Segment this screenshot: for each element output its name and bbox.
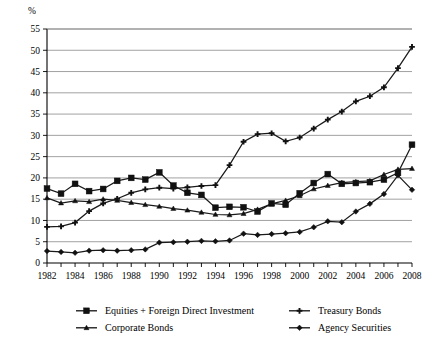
x-tick-label: 1986 — [94, 271, 113, 281]
x-tick-label: 2004 — [346, 271, 365, 281]
data-point-marker — [241, 204, 247, 210]
data-point-marker — [100, 186, 106, 192]
data-point-marker — [44, 186, 50, 192]
y-tick-label: 50 — [31, 46, 41, 56]
data-point-marker — [213, 205, 219, 211]
y-tick-label: 10 — [31, 216, 41, 226]
data-point-marker — [184, 190, 190, 196]
data-point-marker — [325, 171, 331, 177]
y-tick-label: 0 — [35, 258, 40, 268]
x-tick-label: 1994 — [206, 271, 225, 281]
y-tick-label: 35 — [31, 109, 41, 119]
y-tick-label: 20 — [31, 173, 41, 183]
y-tick-label: 55 — [31, 24, 41, 34]
data-point-marker — [227, 204, 233, 210]
y-tick-label: 40 — [31, 88, 41, 98]
data-point-marker — [311, 180, 317, 186]
chart-container: 0510152025303540455055 19821984198619881… — [0, 0, 427, 343]
y-tick-label: 30 — [31, 131, 41, 141]
data-point-marker — [156, 169, 162, 175]
data-point-marker — [409, 142, 415, 148]
data-point-marker — [199, 192, 205, 198]
data-point-marker — [58, 191, 64, 197]
y-tick-label: 25 — [31, 152, 41, 162]
y-tick-label: 5 — [35, 237, 40, 247]
y-axis-unit-label: % — [28, 6, 36, 16]
legend-label: Treasury Bonds — [318, 305, 381, 316]
legend-marker-icon — [84, 308, 90, 314]
x-tick-label: 2006 — [374, 271, 393, 281]
x-tick-label: 1996 — [234, 271, 253, 281]
data-point-marker — [381, 177, 387, 183]
data-point-marker — [72, 181, 78, 187]
x-tick-label: 1982 — [38, 271, 57, 281]
y-tick-label: 45 — [31, 67, 41, 77]
legend-label: Corporate Bonds — [105, 322, 173, 333]
x-tick-label: 1988 — [122, 271, 141, 281]
legend-label: Agency Securities — [318, 322, 391, 333]
chart-background — [0, 0, 427, 343]
data-point-marker — [128, 175, 134, 181]
line-chart: 0510152025303540455055 19821984198619881… — [0, 0, 427, 343]
data-point-marker — [283, 202, 289, 208]
x-tick-label: 2000 — [290, 271, 309, 281]
x-tick-label: 2002 — [318, 271, 337, 281]
data-point-marker — [142, 177, 148, 183]
legend-label: Equities + Foreign Direct Investment — [105, 305, 254, 316]
x-tick-label: 2008 — [403, 271, 422, 281]
x-tick-label: 1998 — [262, 271, 281, 281]
x-tick-label: 1984 — [66, 271, 85, 281]
y-tick-label: 15 — [31, 194, 41, 204]
x-tick-label: 1992 — [178, 271, 197, 281]
data-point-marker — [86, 188, 92, 194]
x-tick-label: 1990 — [150, 271, 169, 281]
data-point-marker — [114, 178, 120, 184]
